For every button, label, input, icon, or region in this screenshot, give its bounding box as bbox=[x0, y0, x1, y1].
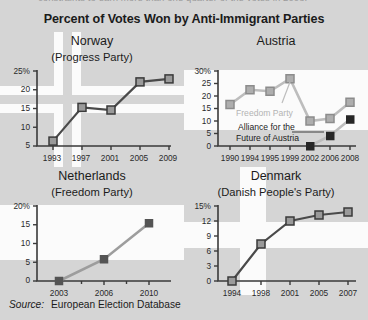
norway-xtick-2: 2001 bbox=[95, 153, 125, 163]
norway-ytick-3: 10 bbox=[0, 122, 30, 132]
austria-ytick-2: 20 bbox=[181, 91, 211, 101]
austria-xtick-6: 2008 bbox=[335, 153, 365, 163]
netherlands-xtick-2: 2010 bbox=[134, 288, 164, 298]
austria-ytick-4: 10 bbox=[181, 116, 211, 126]
denmark-xtick-3: 2005 bbox=[304, 288, 334, 298]
austria-ytick-1: 25 bbox=[181, 78, 211, 88]
denmark-title: Denmark bbox=[184, 169, 368, 183]
denmark-ytick-1: 12 bbox=[181, 216, 211, 226]
netherlands-ytick-4: 0 bbox=[0, 275, 30, 285]
netherlands-ytick-3: 5 bbox=[0, 257, 30, 267]
austria-ytick-0: 30% bbox=[181, 66, 211, 76]
source-line: Source: European Election Database bbox=[9, 299, 181, 310]
denmark-xtick-4: 2007 bbox=[333, 288, 363, 298]
denmark-ytick-0: 15% bbox=[181, 201, 211, 211]
netherlands-axes bbox=[37, 205, 171, 281]
panel-netherlands: Netherlands (Freedom Party) 20% 15 10 5 … bbox=[0, 167, 184, 295]
norway-ytick-0: 25% bbox=[0, 66, 30, 76]
norway-title: Norway bbox=[0, 34, 184, 48]
page-title: Percent of Votes Won by Anti-Immigrant P… bbox=[0, 12, 368, 26]
austria-ytick-5: 5 bbox=[181, 128, 211, 138]
netherlands-xtick-1: 2006 bbox=[89, 288, 119, 298]
netherlands-ytick-2: 10 bbox=[0, 238, 30, 248]
netherlands-series-line bbox=[59, 223, 149, 281]
source-label: Source: bbox=[9, 299, 44, 310]
denmark-xtick-2: 2001 bbox=[275, 288, 305, 298]
austria-freedom-party-label: Freedom Party bbox=[236, 108, 293, 118]
netherlands-subtitle: (Freedom Party) bbox=[0, 186, 184, 198]
denmark-subtitle: (Danish People's Party) bbox=[184, 186, 368, 198]
denmark-ytick-2: 9 bbox=[181, 231, 211, 241]
austria-freedom-party-leader bbox=[282, 82, 290, 103]
netherlands-plot-svg bbox=[31, 205, 172, 287]
norway-xtick-1: 1997 bbox=[66, 153, 96, 163]
panel-norway: Norway (Progress Party) bbox=[0, 32, 184, 167]
cropped-caption-fragment: constraints to earn more than one quarte… bbox=[0, 0, 368, 9]
denmark-plot bbox=[212, 205, 358, 287]
austria-ytick-6: 0 bbox=[181, 141, 211, 151]
norway-xtick-4: 2009 bbox=[153, 153, 183, 163]
netherlands-xtick-0: 2003 bbox=[44, 288, 74, 298]
denmark-xtick-0: 1994 bbox=[217, 288, 247, 298]
denmark-series-markers bbox=[228, 208, 352, 285]
netherlands-plot bbox=[31, 205, 172, 287]
austria-alliance-label-line1: Alliance for the bbox=[238, 122, 295, 132]
norway-plot-svg bbox=[31, 70, 172, 152]
norway-subtitle: (Progress Party) bbox=[0, 51, 184, 63]
source-value: European Election Database bbox=[51, 299, 181, 310]
norway-plot bbox=[31, 70, 172, 152]
denmark-ytick-4: 3 bbox=[181, 261, 211, 271]
panel-denmark: Denmark (Danish People's Party) 15 bbox=[184, 167, 368, 295]
denmark-ytick-3: 6 bbox=[181, 246, 211, 256]
netherlands-ytick-0: 20% bbox=[0, 201, 30, 211]
chart-figure: { "cropped_text_top": "constraints to ea… bbox=[0, 0, 368, 320]
norway-xtick-0: 1993 bbox=[37, 153, 67, 163]
norway-ytick-4: 5 bbox=[0, 140, 30, 150]
norway-xtick-3: 2005 bbox=[124, 153, 154, 163]
denmark-ytick-5: 0 bbox=[181, 276, 211, 286]
austria-title: Austria bbox=[184, 34, 368, 48]
austria-alliance-label-line2: Future of Austria bbox=[236, 133, 299, 143]
denmark-plot-svg bbox=[212, 205, 358, 287]
panel-austria: Austria bbox=[184, 32, 368, 167]
norway-series-markers bbox=[49, 75, 173, 145]
netherlands-title: Netherlands bbox=[0, 169, 184, 183]
norway-ytick-1: 20 bbox=[0, 84, 30, 94]
cropped-caption-text: constraints to earn more than one quarte… bbox=[38, 0, 307, 3]
netherlands-ytick-1: 15 bbox=[0, 219, 30, 229]
austria-ytick-3: 15 bbox=[181, 103, 211, 113]
denmark-xtick-1: 1998 bbox=[246, 288, 276, 298]
norway-ytick-2: 15 bbox=[0, 103, 30, 113]
